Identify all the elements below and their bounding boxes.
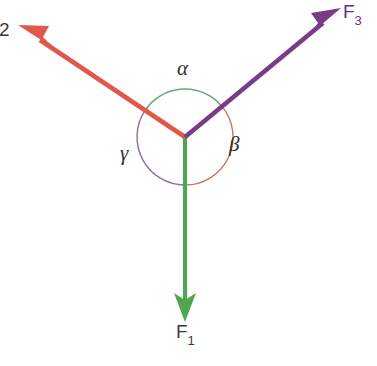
angle-label-gamma: γ: [120, 143, 128, 164]
vector-label-f1-base: F: [176, 321, 188, 342]
vector-label-f2-text: 2: [0, 19, 10, 40]
vector-label-f3: F3: [343, 2, 362, 25]
force-vector-diagram: F3 2 F1 α β γ: [0, 0, 377, 366]
angle-label-alpha: α: [177, 58, 188, 79]
arc-alpha: [145, 89, 222, 110]
vector-canvas: [0, 0, 377, 366]
vector-label-f2: 2: [0, 20, 10, 39]
vector-label-f1: F1: [176, 322, 195, 345]
vector-label-f3-base: F: [343, 1, 355, 22]
angle-label-beta: β: [229, 134, 239, 155]
vector-f3-shaft: [185, 23, 323, 137]
vector-label-f1-subscript: 1: [188, 333, 195, 348]
vector-f2-shaft: [40, 40, 185, 137]
vector-label-f3-subscript: 3: [355, 13, 362, 28]
